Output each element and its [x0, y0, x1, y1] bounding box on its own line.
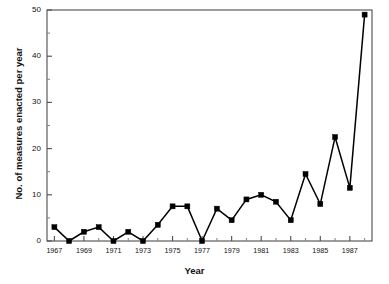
data-point-marker	[111, 239, 116, 244]
data-point-marker	[273, 199, 278, 204]
plot-frame	[47, 10, 372, 241]
data-point-marker	[362, 12, 367, 17]
y-axis-tick-label: 20	[15, 145, 41, 153]
data-point-marker	[170, 204, 175, 209]
data-point-marker	[200, 239, 205, 244]
y-axis-tick-label: 10	[15, 191, 41, 199]
y-axis-tick-label: 40	[15, 52, 41, 60]
data-point-marker	[288, 218, 293, 223]
data-point-marker	[214, 206, 219, 211]
y-axis-tick-label: 0	[15, 237, 41, 245]
data-point-marker	[81, 229, 86, 234]
data-point-marker	[96, 225, 101, 230]
data-point-marker	[141, 239, 146, 244]
data-point-marker	[67, 239, 72, 244]
data-series-line	[54, 15, 364, 241]
chart-figure: No. of measures enacted per year Year 01…	[0, 0, 389, 284]
x-axis-tick-label: 1987	[333, 247, 367, 255]
x-axis-title: Year	[0, 265, 389, 276]
data-point-marker	[244, 197, 249, 202]
data-point-marker	[155, 222, 160, 227]
data-point-marker	[185, 204, 190, 209]
data-point-marker	[318, 202, 323, 207]
data-point-marker	[126, 229, 131, 234]
y-axis-tick-label: 30	[15, 98, 41, 106]
data-point-marker	[52, 225, 57, 230]
data-point-marker	[303, 172, 308, 177]
data-point-marker	[347, 185, 352, 190]
y-axis-tick-label: 50	[15, 6, 41, 14]
data-point-marker	[333, 135, 338, 140]
line-chart-plot	[0, 0, 389, 284]
data-point-marker	[259, 192, 264, 197]
data-point-marker	[229, 218, 234, 223]
